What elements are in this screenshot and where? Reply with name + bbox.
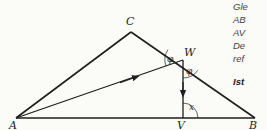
label-a: A [8, 119, 17, 130]
side-text-line: AB [233, 13, 267, 26]
label-v: V [177, 119, 186, 130]
arrowhead-aw [120, 77, 136, 83]
side-text-line: Gle [233, 0, 267, 13]
angle-label-phi-upper: φ [167, 54, 174, 64]
label-c: C [126, 15, 135, 28]
angle-label-x: x [189, 102, 194, 112]
ray-aw [16, 60, 183, 118]
triangle-figure: A B C W V φ φ x [0, 0, 267, 130]
angle-label-phi-lower: φ [186, 66, 193, 76]
side-ac [16, 32, 131, 118]
side-text-line: AV [233, 26, 267, 39]
label-b: B [248, 119, 257, 130]
label-w: W [184, 46, 197, 59]
side-text-line: De [233, 39, 267, 52]
side-text: Gle AB AV De ref Ist [233, 0, 267, 65]
question-text: Ist [233, 75, 244, 88]
side-text-line: ref [233, 52, 267, 65]
